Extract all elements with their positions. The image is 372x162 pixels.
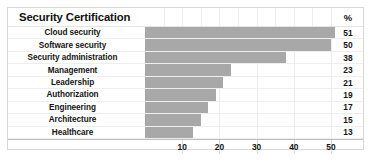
category-label: Architecture [8,114,137,125]
gridline [331,89,332,100]
gridline-minor [238,8,239,26]
header-plot-area [137,8,333,26]
value-label: 51 [333,27,363,38]
value-label: 50 [333,39,363,50]
gridline [219,114,220,125]
x-tick-label: 10 [170,140,194,154]
bar [145,127,193,138]
gridline [294,52,295,63]
page-title: Security Certification [8,8,148,26]
gridline [331,39,332,50]
value-column-header: % [333,8,363,26]
bar-cell [137,27,333,38]
gridline [294,114,295,125]
gridline [331,64,332,75]
gridline [331,52,332,63]
gridline [294,102,295,113]
gridline [331,77,332,88]
gridline [294,89,295,100]
gridline [294,77,295,88]
bar-cell [137,114,333,125]
category-label: Leadership [8,77,137,88]
category-label: Management [8,64,137,75]
table-row: Security administration38 [8,52,363,64]
category-label: Software security [8,39,137,50]
category-label: Cloud security [8,27,137,38]
x-axis-area: 1020304050 [137,140,333,154]
table-row: Healthcare13 [8,127,363,139]
gridline [182,8,183,26]
value-label: 13 [333,127,363,138]
gridline [219,102,220,113]
gridline [331,8,332,26]
gridline [257,8,258,26]
table-row: Leadership21 [8,77,363,89]
bar-cell [137,89,333,100]
table-row: Architecture15 [8,114,363,126]
category-label: Authorization [8,89,137,100]
value-label: 19 [333,89,363,100]
bar [145,39,331,50]
bar [145,52,286,63]
gridline-minor [164,8,165,26]
bar [145,77,223,88]
gridline-minor [201,8,202,26]
x-tick-label: 40 [282,140,306,154]
category-label: Security administration [8,52,137,63]
chart-header-row: Security Certification % [8,8,363,27]
gridline [257,77,258,88]
gridline [294,127,295,138]
gridline [219,127,220,138]
gridline [294,8,295,26]
gridline [257,127,258,138]
gridline [331,114,332,125]
bar-cell [137,64,333,75]
x-tick-label: 20 [207,140,231,154]
bar [145,102,208,113]
bar-cell [137,102,333,113]
category-label: Healthcare [8,127,137,138]
gridline-minor [312,8,313,26]
value-label: 15 [333,114,363,125]
chart-figure: Security Certification % Cloud security5… [7,7,364,150]
axis-label-spacer [8,140,137,154]
bar-cell [137,77,333,88]
x-axis-row: 1020304050 [8,139,363,154]
gridline [257,64,258,75]
axis-value-spacer [333,140,363,154]
category-label: Engineering [8,102,137,113]
bar-cell [137,127,333,138]
value-label: 17 [333,102,363,113]
value-label: 21 [333,77,363,88]
table-row: Authorization19 [8,89,363,101]
gridline [331,102,332,113]
bar-cell [137,52,333,63]
gridline [294,64,295,75]
table-row: Software security50 [8,39,363,51]
gridline [219,8,220,26]
table-row: Management23 [8,64,363,76]
gridline [219,89,220,100]
bar [145,27,335,38]
gridline-minor [275,8,276,26]
bar [145,64,231,75]
gridline [331,127,332,138]
gridline [257,114,258,125]
table-row: Cloud security51 [8,27,363,39]
x-tick-label: 30 [245,140,269,154]
bar [145,89,216,100]
value-label: 38 [333,52,363,63]
table-row: Engineering17 [8,102,363,114]
bar [145,114,201,125]
gridline [257,89,258,100]
bar-cell [137,39,333,50]
gridline [257,102,258,113]
value-label: 23 [333,64,363,75]
